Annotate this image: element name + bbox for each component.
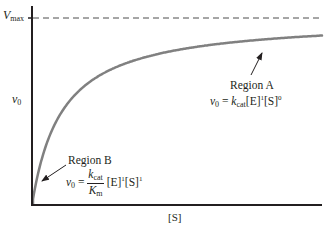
ra-s: [S] — [264, 95, 278, 107]
x-axis-label: [S] — [168, 212, 181, 223]
vmax-sub: max — [10, 14, 24, 23]
region-b-title: Region B — [68, 155, 112, 167]
rb-den-sub: m — [96, 189, 102, 198]
ra-eq: = — [219, 95, 231, 107]
rb-s-sup: 1 — [139, 175, 143, 183]
rb-num-sub: cat — [93, 173, 102, 182]
region-a-equation: v0 = kcat[E]1[S]0 — [210, 95, 282, 109]
ra-k-sub: cat — [236, 100, 245, 109]
region-b-equation: v0 = kcatKm [E]1[S]1 — [66, 169, 142, 198]
ra-e: [E] — [246, 95, 261, 107]
region-a-title: Region A — [230, 80, 274, 92]
y-label-sub: 0 — [17, 98, 21, 107]
vmax-label: Vmax — [3, 9, 24, 23]
region-a-arrow — [251, 53, 262, 75]
region-b-arrow — [42, 165, 66, 181]
rb-e: [E] — [107, 176, 122, 188]
rb-fraction: kcatKm — [87, 169, 103, 198]
rb-s: [S] — [125, 176, 139, 188]
y-axis-label: v0 — [12, 93, 21, 107]
ra-s-sup: 0 — [278, 94, 282, 102]
michaelis-menten-chart — [0, 0, 329, 234]
rb-eq: = — [75, 176, 87, 188]
